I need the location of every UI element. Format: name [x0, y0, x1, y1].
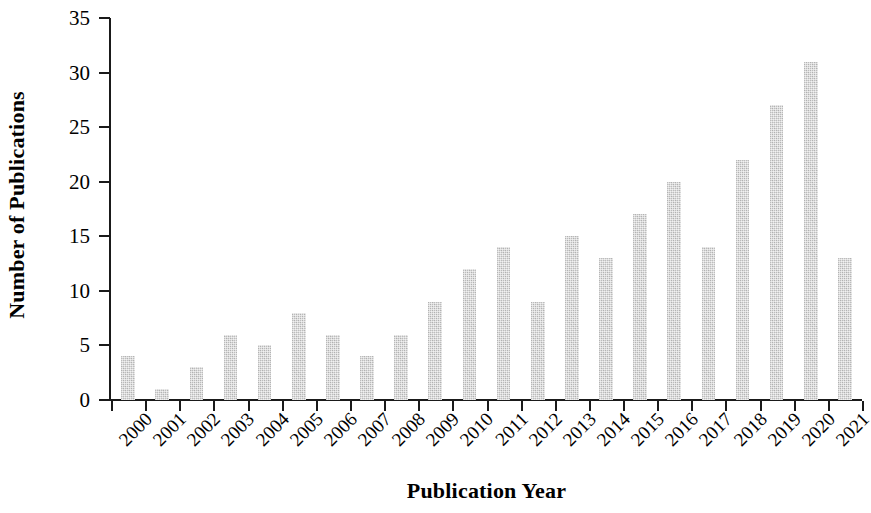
- y-axis-tick-mark: [99, 72, 110, 74]
- bar: [326, 335, 340, 400]
- x-axis-title: Publication Year: [111, 478, 862, 504]
- x-axis-tick-mark: [862, 401, 864, 411]
- bar-chart-figure: Number of Publications 05101520253035 20…: [0, 0, 871, 513]
- bar: [292, 313, 306, 400]
- x-axis-tick-label: 2004: [252, 409, 292, 449]
- x-axis-tick-label: 2009: [422, 409, 462, 449]
- bar: [702, 247, 716, 400]
- x-axis-tick-label: 2020: [798, 409, 838, 449]
- x-axis-tick-label: 2007: [354, 409, 394, 449]
- bar: [497, 247, 511, 400]
- x-axis-tick-mark: [487, 401, 489, 411]
- x-axis-tick-label: 2014: [593, 409, 633, 449]
- y-axis-tick-label: 30: [69, 62, 90, 83]
- x-axis-tick-label: 2010: [457, 409, 497, 449]
- x-axis-tick-mark: [828, 401, 830, 411]
- y-axis-tick-mark: [99, 399, 110, 401]
- x-axis-tick-label: 2000: [115, 409, 155, 449]
- x-axis-tick-labels: 2000200120022003200420052006200720082009…: [111, 409, 862, 471]
- bar: [599, 258, 613, 400]
- y-axis-tick-mark: [99, 290, 110, 292]
- y-axis-tick-label: 20: [69, 171, 90, 192]
- x-axis-tick-mark: [384, 401, 386, 411]
- bar: [838, 258, 852, 400]
- x-axis-tick-mark: [248, 401, 250, 411]
- y-axis-tick-label: 5: [80, 335, 91, 356]
- x-axis-tick-mark: [213, 401, 215, 411]
- x-axis-tick-label: 2005: [286, 409, 326, 449]
- x-axis-tick-mark: [282, 401, 284, 411]
- bar: [565, 236, 579, 400]
- y-axis-tick-labels: 05101520253035: [34, 0, 100, 410]
- y-axis-tick-label: 25: [69, 117, 90, 138]
- bar: [463, 269, 477, 400]
- x-axis-tick-mark: [316, 401, 318, 411]
- y-axis-tick-label: 0: [80, 390, 91, 411]
- bar: [394, 335, 408, 400]
- bar: [360, 356, 374, 400]
- x-axis-tick-mark: [589, 401, 591, 411]
- y-axis-tick-mark: [99, 126, 110, 128]
- y-axis-tick-label: 35: [69, 8, 90, 29]
- y-axis-tick-mark: [99, 235, 110, 237]
- x-axis-tick-label: 2008: [388, 409, 428, 449]
- x-axis-tick-label: 2013: [559, 409, 599, 449]
- y-axis-tick-mark: [99, 17, 110, 19]
- x-axis-tick-mark: [794, 401, 796, 411]
- bar: [224, 335, 238, 400]
- y-axis-tick-label: 15: [69, 226, 90, 247]
- x-axis-tick-mark: [691, 401, 693, 411]
- bar: [258, 345, 272, 400]
- plot-area: [111, 18, 862, 400]
- x-axis-tick-label: 2011: [491, 409, 531, 449]
- x-axis-tick-label: 2019: [764, 409, 804, 449]
- x-axis-tick-label: 2003: [218, 409, 258, 449]
- x-axis-tick-label: 2018: [730, 409, 770, 449]
- x-axis-tick-mark: [623, 401, 625, 411]
- bar: [190, 367, 204, 400]
- bar: [770, 105, 784, 400]
- x-axis-tick-mark: [555, 401, 557, 411]
- x-axis-tick-mark: [521, 401, 523, 411]
- bar: [633, 214, 647, 400]
- x-axis-tick-mark: [145, 401, 147, 411]
- y-axis-tick-label: 10: [69, 280, 90, 301]
- x-axis-tick-mark: [725, 401, 727, 411]
- bar: [667, 182, 681, 400]
- y-axis-title: Number of Publications: [0, 0, 34, 410]
- x-axis-tick-label: 2021: [832, 409, 871, 449]
- x-axis-tick-mark: [350, 401, 352, 411]
- x-axis-tick-mark: [657, 401, 659, 411]
- x-axis-tick-mark: [179, 401, 181, 411]
- x-axis-tick-label: 2002: [183, 409, 223, 449]
- x-axis-tick-label: 2015: [627, 409, 667, 449]
- bar: [804, 62, 818, 400]
- x-axis-tick-label: 2006: [320, 409, 360, 449]
- bar: [155, 389, 169, 400]
- x-axis-tick-label: 2016: [661, 409, 701, 449]
- x-axis-tick-label: 2012: [525, 409, 565, 449]
- x-axis-tick-label: 2001: [149, 409, 189, 449]
- bar: [531, 302, 545, 400]
- x-axis-tick-mark: [760, 401, 762, 411]
- y-axis-tick-mark: [99, 344, 110, 346]
- bar: [121, 356, 135, 400]
- x-axis-tick-label: 2017: [696, 409, 736, 449]
- y-axis-tick-mark: [99, 181, 110, 183]
- x-axis-tick-mark: [452, 401, 454, 411]
- y-axis-title-text: Number of Publications: [4, 91, 30, 319]
- x-axis-tick-mark: [418, 401, 420, 411]
- bar: [428, 302, 442, 400]
- bar: [736, 160, 750, 400]
- x-axis-tick-mark: [111, 401, 113, 411]
